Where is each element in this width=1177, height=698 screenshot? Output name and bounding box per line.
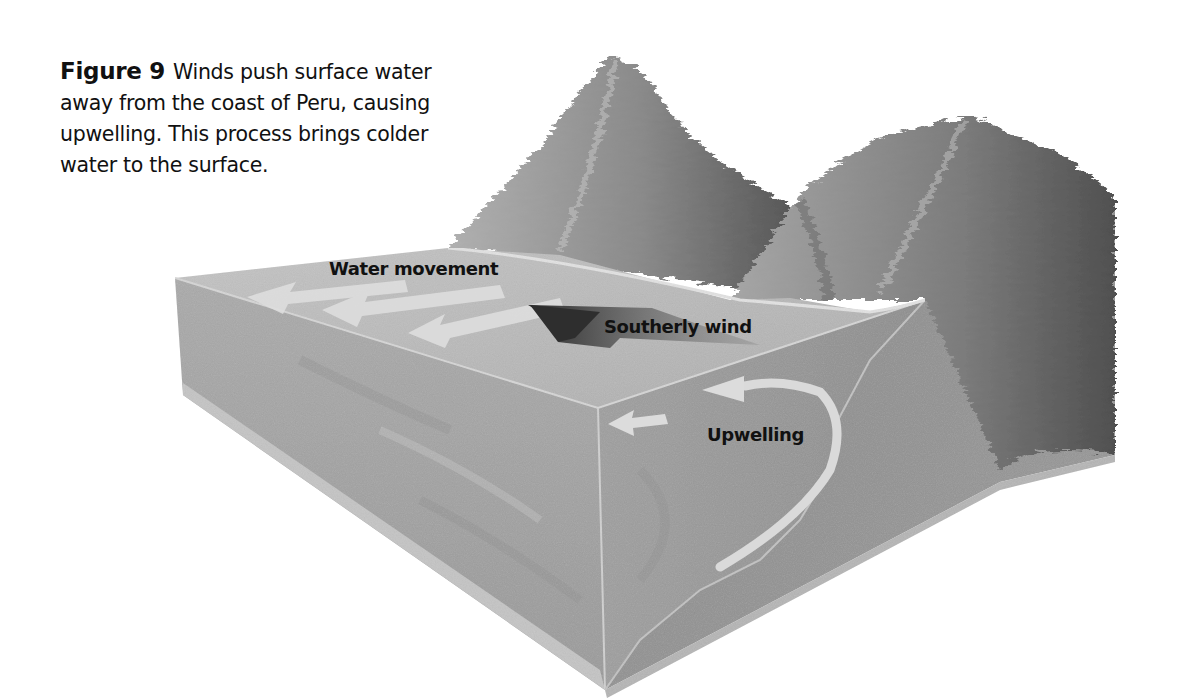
upwelling-diagram [0, 0, 1177, 698]
label-water-movement: Water movement [329, 258, 498, 279]
label-southerly-wind: Southerly wind [604, 316, 752, 337]
label-upwelling: Upwelling [707, 424, 804, 445]
